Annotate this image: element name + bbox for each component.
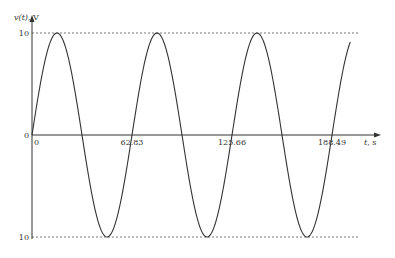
y-axis-label: v(t), V	[14, 13, 39, 22]
x-tick-label: 188.49	[318, 138, 346, 147]
y-tick-label: 10	[19, 29, 29, 38]
x-tick-label: 62.83	[121, 138, 144, 147]
x-axis-label: t, s	[364, 138, 376, 147]
x-tick-labels: 062.83125.66188.49	[34, 138, 346, 147]
y-axis-label-unit: , V	[28, 13, 39, 22]
y-tick-label: 0	[24, 131, 29, 140]
x-tick-label: 0	[34, 138, 39, 147]
axes	[30, 15, 382, 239]
y-tick-labels: 10010	[19, 29, 29, 242]
x-axis-arrow	[374, 133, 381, 138]
chart: 062.83125.66188.49 10010 v(t), V t, s	[0, 0, 395, 258]
x-axis-label-unit: , s	[367, 138, 376, 147]
y-axis-label-var: v(t)	[14, 13, 28, 22]
y-tick-label: 10	[19, 233, 29, 242]
x-tick-label: 125.66	[218, 138, 246, 147]
